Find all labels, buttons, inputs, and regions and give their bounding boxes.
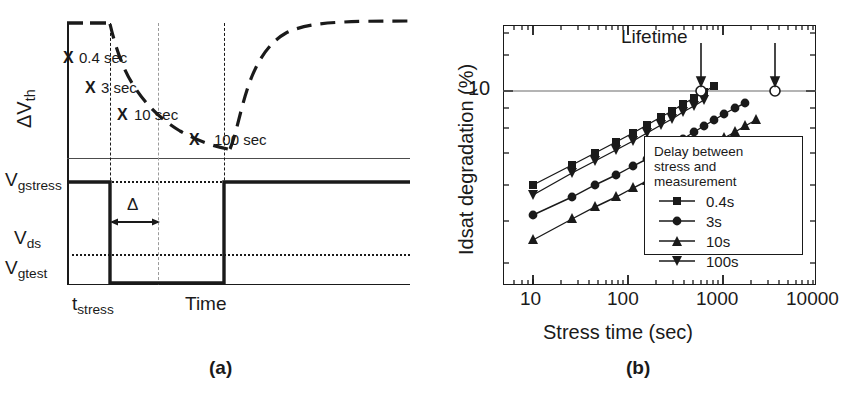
panel-b-x-axis-label: Stress time (sec) — [543, 322, 693, 342]
delta-span-arrow — [108, 214, 162, 230]
measurement-marker-4: X — [189, 131, 200, 149]
legend-marker-triangle-down-icon — [657, 254, 697, 268]
measurement-label-1: 0.4 sec — [79, 49, 127, 66]
legend-entry-10s: 10s — [645, 231, 802, 251]
measurement-marker-1: X — [63, 49, 74, 67]
lifetime-leader-lines — [697, 43, 779, 86]
figure-root: X 0.4 sec X 3 sec X 10 sec X 100 sec Δ Δ… — [0, 0, 859, 395]
panel-a-caption: (a) — [209, 358, 232, 377]
level-label-vds: Vds — [14, 228, 41, 251]
measurement-label-3: 10 sec — [134, 106, 178, 123]
tstress-sub: stress — [77, 302, 113, 317]
x-tick-label-100: 100 — [607, 289, 639, 308]
delta-label: Δ — [127, 196, 138, 213]
legend-marker-triangle-up-icon — [657, 234, 697, 248]
measurement-label-4: 100 sec — [214, 131, 267, 148]
legend-entry-3s: 3s — [645, 211, 802, 231]
legend-title: Delay between stress and measurement — [645, 137, 802, 191]
legend-marker-circle-icon — [657, 214, 697, 228]
legend-title-line-2: stress and measurement — [654, 159, 802, 189]
measurement-label-2: 3 sec — [101, 79, 137, 96]
vds-sub: ds — [27, 236, 41, 251]
measurement-marker-3: X — [117, 106, 128, 124]
legend-entry-0p4s: 0.4s — [645, 191, 802, 211]
lifetime-annotation-label: Lifetime — [621, 27, 688, 46]
x-axis-marker-tstress: tstress — [72, 294, 114, 317]
vds-base: V — [14, 227, 27, 248]
panel-a-y-axis-label: ΔVth — [14, 89, 37, 128]
vgtest-sub: gtest — [18, 266, 48, 281]
y-axis-label-text: ΔV — [13, 101, 35, 128]
legend-entry-100s: 100s — [645, 251, 802, 271]
level-label-vgstress: Vgstress — [5, 170, 62, 193]
legend-title-line-1: Delay between — [654, 144, 802, 159]
measurement-marker-2: X — [85, 79, 96, 97]
vgstress-base: V — [5, 169, 18, 190]
legend-label-0p4s: 0.4s — [697, 193, 734, 210]
vgstress-sub: gstress — [18, 178, 62, 193]
panel-b-y-axis-label: Idsat degradation (%) — [456, 64, 476, 255]
y-axis-label-subscript: th — [22, 89, 38, 101]
legend-label-3s: 3s — [697, 213, 722, 230]
panel-b-legend: Delay between stress and measurement 0.4… — [644, 136, 803, 255]
panel-b: Lifetime 10 10 100 1000 10000 Idsat degr… — [430, 0, 859, 395]
vgtest-base: V — [5, 257, 18, 278]
x-tick-label-1000: 1000 — [696, 289, 738, 308]
panel-a: X 0.4 sec X 3 sec X 10 sec X 100 sec Δ Δ… — [0, 0, 430, 395]
panel-a-x-axis-label: Time — [185, 294, 227, 313]
panel-b-caption: (b) — [626, 358, 650, 377]
gate-pulse-waveform — [67, 180, 410, 285]
legend-label-100s: 100s — [697, 253, 739, 270]
legend-marker-square-icon — [657, 194, 697, 208]
legend-label-10s: 10s — [697, 233, 730, 250]
x-tick-label-10000: 10000 — [786, 289, 839, 308]
x-tick-label-10: 10 — [520, 289, 541, 308]
level-label-vgtest: Vgtest — [5, 258, 47, 281]
